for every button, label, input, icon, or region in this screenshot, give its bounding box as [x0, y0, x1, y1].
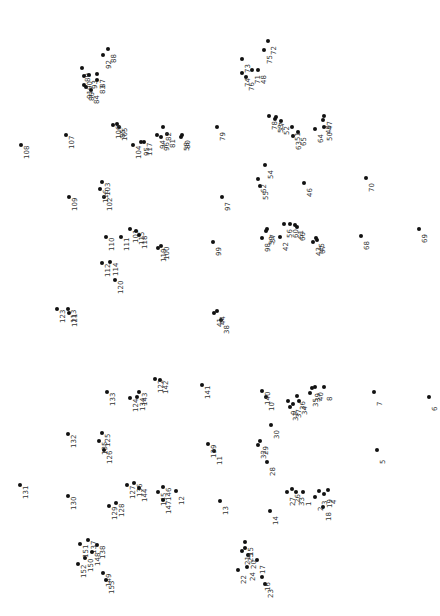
dot-79 [215, 125, 219, 129]
dot-label: 27 [290, 497, 297, 506]
dot-13 [218, 499, 222, 503]
dot-label: 105 [122, 128, 129, 141]
dot-label: 129 [112, 507, 119, 520]
dot-label: 37 [296, 409, 303, 418]
dot-99 [211, 240, 215, 244]
dot-label: 110 [109, 238, 116, 251]
dot-label: 118 [142, 236, 149, 249]
dot-label: 98 [265, 243, 272, 252]
dot-22 [236, 568, 240, 572]
dot-label: 123 [60, 310, 67, 323]
dot-label: 67 [320, 245, 327, 254]
dot-19 [322, 492, 326, 496]
dot-label: 92 [106, 60, 113, 69]
dot-label: 109 [72, 198, 79, 211]
dot-label: 1 [306, 502, 313, 506]
dot-label: 112 [105, 264, 112, 277]
dot-97 [220, 195, 224, 199]
dot-label: 141 [205, 386, 212, 399]
dot-label: 46 [307, 188, 314, 197]
dot-60 [288, 222, 292, 226]
dot-16 [260, 575, 264, 579]
dot-label: 62 [261, 184, 268, 193]
dot-label: 152 [81, 565, 88, 578]
dot-label: 54 [268, 170, 275, 179]
dot-label: 44 [220, 316, 227, 325]
dot-label: 131 [23, 486, 30, 499]
dot-label: 70 [369, 183, 376, 192]
dot-7 [372, 390, 376, 394]
dot-90 [82, 74, 86, 78]
dot-label: 17 [260, 565, 267, 574]
dot-6 [427, 395, 431, 399]
dot-50 [322, 125, 326, 129]
dot-label: 23 [268, 589, 275, 598]
dot-89 [80, 66, 84, 70]
dot-74 [240, 71, 244, 75]
dot-96 [159, 135, 163, 139]
dot-35 [308, 391, 312, 395]
dot-91 [82, 83, 86, 87]
dot-to-dot-puzzle: 1234567891011121314151617181920212223242… [0, 0, 440, 616]
dot-label: 96 [164, 142, 171, 151]
dot-18 [321, 505, 325, 509]
dot-93 [87, 73, 91, 77]
dot-label: 107 [69, 136, 76, 149]
dot-label: 33 [299, 497, 306, 506]
dot-8 [322, 385, 326, 389]
dot-44 [215, 309, 219, 313]
dot-label: 72 [271, 46, 278, 55]
dot-14 [268, 509, 272, 513]
dot-78 [267, 114, 271, 118]
dot-label: 148 [95, 553, 102, 566]
dot-28 [265, 460, 269, 464]
dot-40 [313, 385, 317, 389]
dot-label: 77 [279, 122, 286, 131]
dot-label: 7 [377, 402, 384, 406]
dot-label: 64 [318, 134, 325, 143]
dot-9 [286, 399, 290, 403]
dot-15 [243, 540, 247, 544]
dot-label: 48 [261, 75, 268, 84]
dot-66 [295, 225, 299, 229]
dot-label: 91 [87, 90, 94, 99]
dot-63 [291, 134, 295, 138]
dot-label: 11 [217, 456, 224, 465]
dot-label: 6 [432, 407, 439, 411]
dot-label: 130 [71, 497, 78, 510]
dot-33 [294, 490, 298, 494]
dot-label: 24 [250, 572, 257, 581]
dot-label: 5 [380, 460, 387, 464]
dot-label: 18 [326, 512, 333, 521]
dot-88 [106, 47, 110, 51]
dot-82 [161, 125, 165, 129]
dot-4 [326, 488, 330, 492]
dot-label: 143 [142, 393, 149, 406]
dot-label: 104 [136, 146, 143, 159]
dot-32 [256, 443, 260, 447]
dot-label: 139 [211, 445, 218, 458]
dot-76 [244, 75, 248, 79]
dot-73 [240, 57, 244, 61]
dot-label: 12 [179, 496, 186, 505]
dot-67 [315, 238, 319, 242]
dot-42 [278, 235, 282, 239]
dot-label: 30 [274, 430, 281, 439]
dot-72 [266, 39, 270, 43]
dot-label: 97 [225, 202, 232, 211]
dot-62 [256, 177, 260, 181]
dot-65 [296, 130, 300, 134]
dot-label: 142 [163, 381, 170, 394]
dot-label: 14 [273, 516, 280, 525]
dot-label: 19 [327, 499, 334, 508]
dot-64 [313, 127, 317, 131]
dot-label: 8 [327, 397, 334, 401]
dot-label: 13 [223, 506, 230, 515]
dot-2 [313, 495, 317, 499]
dot-label: 87 [100, 79, 107, 88]
dot-label: 132 [71, 435, 78, 448]
dot-77 [274, 115, 278, 119]
dot-label: 135 [102, 442, 109, 455]
dot-69 [417, 227, 421, 231]
dot-5 [375, 448, 379, 452]
